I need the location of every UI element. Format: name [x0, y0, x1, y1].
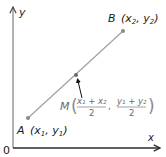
svg-text:y₁ + y₂: y₁ + y₂ — [116, 96, 147, 106]
midpoint-diagram: y x 0 B (x2, y2) A (x1, y1) M ( x₁ + x₂ … — [0, 0, 166, 157]
svg-text:x₁ + x₂: x₁ + x₂ — [76, 96, 107, 106]
y-axis-label: y — [18, 6, 26, 19]
origin-label: 0 — [3, 144, 10, 157]
point-m — [74, 73, 78, 77]
svg-text:): ) — [148, 96, 155, 116]
point-m-label: M ( x₁ + x₂ 2 , y₁ + y₂ 2 ) — [60, 96, 155, 118]
x-axis-label: x — [147, 132, 154, 143]
svg-text:,: , — [108, 101, 111, 111]
svg-text:M: M — [60, 100, 70, 113]
point-b — [121, 29, 125, 33]
point-b-label: B (x2, y2) — [108, 12, 159, 26]
point-a-label: A (x1, y1) — [16, 124, 68, 138]
point-a — [26, 116, 30, 120]
svg-text:2: 2 — [89, 108, 94, 118]
svg-text:2: 2 — [129, 108, 134, 118]
